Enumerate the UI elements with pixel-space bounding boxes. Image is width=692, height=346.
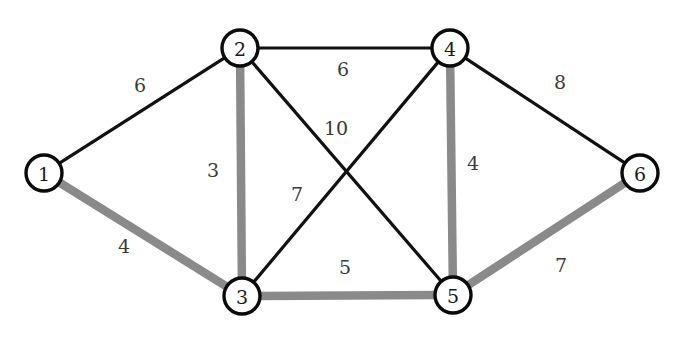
graph-edge-2-3 [240,64,242,279]
node-label-5: 5 [447,285,459,307]
edge-weight-label-1-3: 4 [118,235,130,257]
edge-weight-label-2-3: 3 [207,159,219,181]
edge-weight-label-5-6: 7 [555,254,567,276]
figure-caption [0,330,692,346]
edge-weight-label-2-5: 10 [324,117,348,139]
graph-node-3: 3 [224,278,260,314]
graph-node-4: 4 [432,30,468,66]
graph-node-6: 6 [622,155,658,191]
edge-weight-label-4-5: 4 [467,152,479,174]
node-label-1: 1 [38,163,50,185]
node-label-3: 3 [236,286,248,308]
graph-edge-3-5 [258,295,436,296]
graph-edge-4-6 [464,57,626,164]
node-label-4: 4 [444,38,456,60]
graph-node-1: 1 [26,155,62,191]
node-label-6: 6 [634,163,646,185]
graph-canvas: 123456 64361075487 [0,0,692,346]
edge-weight-label-4-6: 8 [554,71,566,93]
graph-figure: 123456 64361075487 [0,0,692,346]
edge-weight-label-3-5: 5 [339,256,351,278]
node-label-2: 2 [234,38,246,60]
graph-node-2: 2 [222,30,258,66]
graph-node-5: 5 [435,277,471,313]
edge-weight-label-3-4: 7 [291,183,303,205]
edge-weight-label-2-4: 6 [337,58,349,80]
graph-edge-1-3 [58,182,228,288]
graph-edge-4-5 [450,64,453,278]
edge-weight-label-1-2: 6 [134,74,146,96]
graph-edge-5-6 [467,182,626,286]
graph-edge-1-2 [58,57,226,164]
